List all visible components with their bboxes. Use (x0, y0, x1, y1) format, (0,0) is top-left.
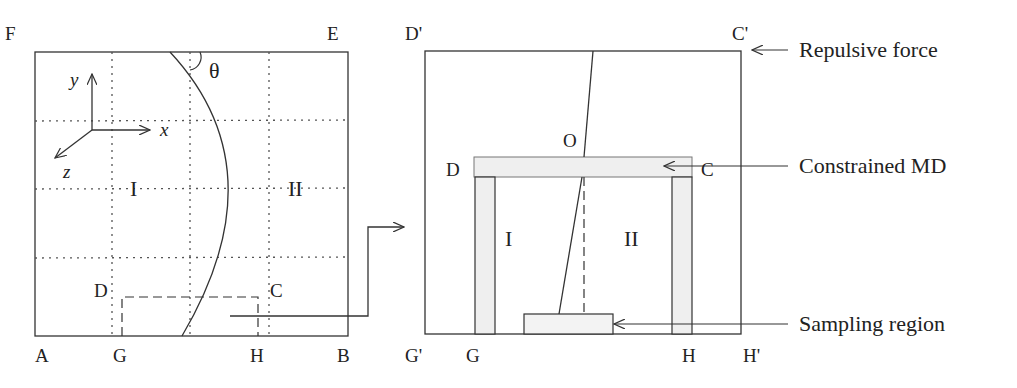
right-panel (425, 50, 788, 334)
sampling-region-box (524, 314, 613, 334)
annotation-sampling-region: Sampling region (799, 313, 945, 335)
annotation-constrained-md: Constrained MD (799, 155, 946, 177)
subbox-label-d: D (94, 281, 108, 300)
inner-label-d: D (446, 160, 460, 179)
region-label-i: I (130, 178, 137, 200)
inner-label-g: G (466, 346, 480, 365)
constrained-md-region (474, 157, 692, 177)
z-axis-label: z (63, 162, 70, 181)
annotation-repulsive-force: Repulsive force (799, 39, 938, 61)
corner-label-d-prime: D' (405, 24, 422, 43)
region-label-i-right: I (505, 228, 512, 250)
y-axis-label: y (70, 70, 78, 89)
x-axis-label: x (160, 120, 168, 139)
corner-label-b: B (337, 346, 350, 365)
inner-label-h: H (682, 346, 696, 365)
corner-label-h-prime: H' (743, 346, 760, 365)
corner-label-g-prime: G' (405, 346, 422, 365)
region-label-ii: II (288, 178, 303, 200)
corner-label-c-prime: C' (732, 24, 748, 43)
corner-label-f: F (5, 24, 16, 43)
theta-label: θ (209, 60, 220, 82)
corner-label-a: A (35, 346, 49, 365)
origin-label-o: O (563, 131, 577, 150)
left-panel (35, 52, 404, 336)
subbox-label-c: C (270, 281, 283, 300)
subbox-label-g: G (113, 346, 127, 365)
corner-label-e: E (327, 24, 339, 43)
inner-label-c: C (701, 160, 714, 179)
region-label-ii-right: II (624, 228, 639, 250)
subbox-label-h: H (250, 346, 264, 365)
